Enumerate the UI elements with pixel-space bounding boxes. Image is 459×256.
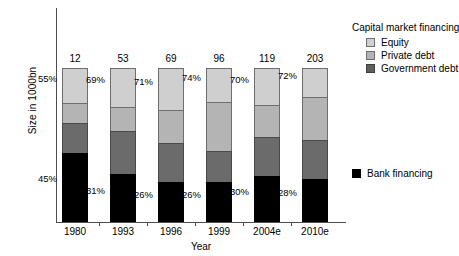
legend-swatch-equity-icon (366, 38, 375, 47)
bar-segment-equity[interactable] (302, 68, 328, 97)
bar-total-label: 96 (213, 53, 224, 64)
legend-label-government-debt: Government debt (381, 63, 458, 74)
bar-segment-govt[interactable] (206, 151, 232, 182)
legend-item[interactable]: Private debt (352, 50, 459, 61)
bank-percent-label: 30% (230, 186, 249, 197)
bar-total-label: 69 (165, 53, 176, 64)
bar-segment-bank[interactable] (158, 182, 184, 222)
capital-market-percent-label: 70% (230, 74, 249, 85)
bar-segment-equity[interactable] (206, 68, 232, 102)
bar-segment-private[interactable] (158, 110, 184, 144)
legend-label-bank-financing: Bank financing (367, 168, 433, 179)
legend-item[interactable]: Government debt (352, 63, 459, 74)
stacked-bar[interactable]: 6971%26% (158, 68, 184, 222)
bar-total-label: 12 (69, 53, 80, 64)
bank-percent-label: 45% (38, 173, 57, 184)
legend-label-private-debt: Private debt (381, 50, 434, 61)
bar-segment-bank[interactable] (302, 179, 328, 222)
capital-market-percent-label: 69% (86, 74, 105, 85)
capital-market-percent-label: 71% (134, 76, 153, 87)
bar-segment-equity[interactable] (62, 68, 88, 103)
bar-segment-bank[interactable] (206, 182, 232, 222)
legend-item[interactable]: Equity (352, 37, 459, 48)
capital-market-percent-label: 72% (278, 70, 297, 81)
bar-segment-private[interactable] (62, 103, 88, 123)
bar-segment-bank[interactable] (110, 174, 136, 222)
bar-total-label: 53 (117, 53, 128, 64)
stacked-bar[interactable]: 11970%30% (254, 68, 280, 222)
bar-segment-equity[interactable] (110, 68, 136, 107)
legend-label-equity: Equity (381, 37, 409, 48)
bar-segment-private[interactable] (302, 97, 328, 140)
bank-percent-label: 26% (182, 189, 201, 200)
bar-segment-govt[interactable] (302, 140, 328, 179)
capital-market-percent-label: 55% (38, 73, 57, 84)
stacked-bar[interactable]: 1255%45% (62, 68, 88, 222)
bar-segment-govt[interactable] (110, 131, 136, 174)
y-axis-line (56, 8, 57, 222)
legend-title: Capital market financing (352, 22, 459, 33)
bar-segment-private[interactable] (254, 105, 280, 137)
y-axis-title: Size in 1000bn (27, 21, 38, 181)
bar-segment-bank[interactable] (254, 176, 280, 222)
bank-percent-label: 28% (278, 187, 297, 198)
bank-percent-label: 26% (134, 189, 153, 200)
stacked-bar[interactable]: 20372%28% (302, 68, 328, 222)
legend-swatch-government-debt-icon (366, 64, 375, 73)
bar-total-label: 203 (307, 53, 324, 64)
bar-segment-govt[interactable] (254, 137, 280, 176)
bar-segment-equity[interactable] (254, 68, 280, 105)
bar-segment-private[interactable] (206, 102, 232, 151)
bar-segment-bank[interactable] (62, 153, 88, 222)
bank-percent-label: 31% (86, 185, 105, 196)
x-axis-title: Year (56, 241, 346, 252)
legend-swatch-private-debt-icon (366, 51, 375, 60)
x-tick-label: 2010e (285, 226, 345, 237)
bar-segment-govt[interactable] (62, 123, 88, 152)
legend-bank-financing: Bank financing (352, 168, 433, 179)
bar-segment-private[interactable] (110, 107, 136, 132)
capital-market-percent-label: 74% (182, 72, 201, 83)
bar-total-label: 119 (259, 53, 275, 64)
bar-segment-govt[interactable] (158, 143, 184, 182)
legend-swatch-bank-financing-icon (352, 169, 361, 178)
stacked-bar[interactable]: 9674%26% (206, 68, 232, 222)
stacked-bar[interactable]: 5369%31% (110, 68, 136, 222)
bar-segment-equity[interactable] (158, 68, 184, 110)
legend-capital-market: Capital market financing EquityPrivate d… (352, 22, 459, 74)
